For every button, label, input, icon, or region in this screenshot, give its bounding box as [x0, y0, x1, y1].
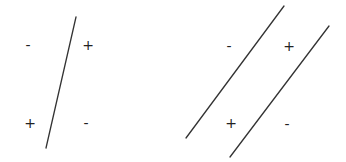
sign-label: +	[82, 37, 94, 53]
left-diagram: - + + -	[24, 17, 94, 148]
sign-label: -	[83, 115, 88, 131]
diagram-canvas: - + + - - + + -	[0, 0, 346, 162]
sign-label: +	[24, 115, 36, 131]
sign-label: -	[284, 116, 289, 132]
sign-label: +	[225, 115, 237, 131]
boundary-line	[230, 26, 329, 157]
sign-label: +	[283, 38, 295, 54]
sign-label: -	[226, 38, 231, 54]
boundary-line	[46, 17, 76, 148]
sign-label: -	[25, 37, 30, 53]
right-diagram: - + + -	[186, 6, 329, 157]
